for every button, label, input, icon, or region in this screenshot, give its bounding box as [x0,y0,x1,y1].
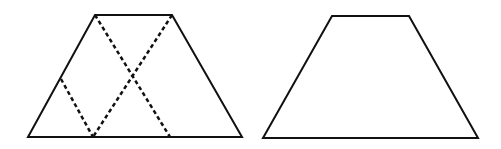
right-trapezoid [263,16,478,138]
left-trapezoid [28,15,242,137]
dashed-line-3 [61,79,93,137]
dashed-cut-lines [61,15,172,137]
left-trapezoid-group [28,15,242,137]
right-trapezoid-group [263,16,478,138]
trapezoid-diagram [0,0,501,149]
